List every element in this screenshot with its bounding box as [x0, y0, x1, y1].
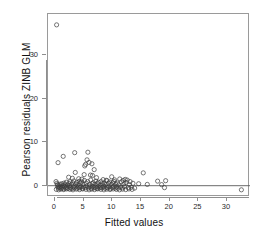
x-tick — [54, 197, 55, 201]
data-point — [55, 23, 59, 27]
y-tick — [42, 185, 46, 186]
data-point — [86, 150, 90, 154]
x-tick — [111, 197, 112, 201]
y-axis-line — [46, 60, 47, 186]
y-axis-title: Pearson residuals ZINB GLM — [21, 30, 32, 190]
data-point — [92, 168, 96, 172]
plot-area — [47, 13, 249, 196]
scatter-canvas — [48, 14, 250, 197]
x-tick-label: 30 — [222, 202, 230, 211]
x-tick — [197, 197, 198, 201]
y-tick — [42, 54, 46, 55]
x-tick — [140, 197, 141, 201]
x-tick — [83, 197, 84, 201]
data-point — [56, 161, 60, 165]
data-point — [141, 171, 145, 175]
scatter-series — [54, 23, 244, 192]
data-point — [164, 179, 168, 183]
x-tick — [226, 197, 227, 201]
y-tick-label: 30 — [0, 50, 38, 59]
data-point — [73, 151, 77, 155]
x-tick-label: 0 — [52, 202, 56, 211]
y-tick — [42, 141, 46, 142]
y-tick-label: 10 — [0, 137, 38, 146]
x-tick-label: 25 — [193, 202, 201, 211]
x-tick-label: 5 — [80, 202, 84, 211]
y-tick — [42, 98, 46, 99]
data-point — [73, 170, 77, 174]
x-tick-label: 10 — [107, 202, 115, 211]
x-tick-label: 20 — [164, 202, 172, 211]
y-tick-label: 0 — [0, 180, 38, 189]
residual-scatter-plot: 051015202530 0102030 Fitted values Pears… — [0, 0, 268, 242]
x-tick-label: 15 — [136, 202, 144, 211]
x-axis-title: Fitted values — [0, 217, 268, 228]
data-point — [83, 164, 87, 168]
data-point — [137, 182, 141, 186]
data-point — [156, 179, 160, 183]
x-axis-line — [57, 197, 249, 198]
data-point — [239, 188, 243, 192]
data-point — [162, 186, 166, 190]
y-tick-label: 20 — [0, 93, 38, 102]
data-point — [61, 154, 65, 158]
x-tick — [169, 197, 170, 201]
data-point — [82, 173, 86, 177]
